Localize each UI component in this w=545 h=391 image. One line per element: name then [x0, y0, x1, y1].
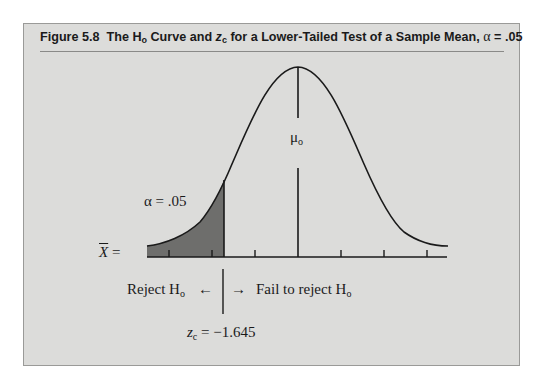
- fail-subscript: o: [346, 288, 351, 299]
- alpha-label: α = .05: [144, 193, 187, 210]
- reject-text: Reject H: [127, 281, 180, 297]
- right-arrow-icon: →: [231, 281, 246, 298]
- rejection-region: [147, 180, 224, 257]
- fail-text: Fail to reject H: [256, 281, 346, 297]
- normal-curve-plot: [0, 0, 545, 391]
- mu-label: μo: [290, 129, 303, 147]
- mu-symbol: μ: [290, 129, 298, 145]
- mu-subscript: o: [298, 136, 303, 147]
- xbar-symbol: X: [99, 244, 108, 260]
- reject-label: Reject Ho: [127, 281, 185, 299]
- xbar-label: X =: [99, 244, 120, 261]
- zc-value: = −1.645: [197, 324, 255, 340]
- reject-subscript: o: [180, 288, 185, 299]
- xbar-equals: =: [108, 244, 120, 260]
- fail-to-reject-label: Fail to reject Ho: [256, 281, 351, 299]
- left-arrow-icon: ←: [198, 281, 213, 298]
- zc-label: zc = −1.645: [187, 324, 255, 342]
